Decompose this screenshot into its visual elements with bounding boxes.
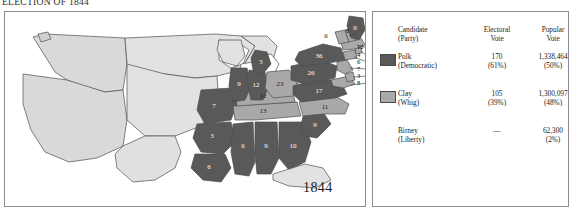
callout-delaware: 3	[357, 72, 360, 79]
legend-swatch-clay	[380, 91, 396, 103]
state-indiana[interactable]	[247, 70, 267, 100]
map-year-label: 1844	[303, 180, 333, 196]
legend-header-electoral: Electoral Vote	[473, 26, 521, 43]
legend-electoral-pct-clay: (39%)	[473, 99, 521, 108]
legend-name-polk: Polk (Democratic)	[398, 53, 437, 70]
legend-name-birney: Birney (Liberty)	[398, 127, 424, 144]
page-title: ELECTION OF 1844	[2, 0, 89, 7]
legend-row-polk[interactable]: Polk (Democratic) 170 (61%) 1,338,464 (5…	[373, 53, 570, 83]
legend-panel: Candidate (Party) Electoral Vote Popular…	[372, 11, 569, 207]
legend-electoral-pct-polk: (61%)	[473, 62, 521, 71]
legend-party-birney: (Liberty)	[398, 136, 424, 145]
legend-popular-polk: 1,338,464 (50%)	[525, 53, 573, 70]
state-arkansas[interactable]	[193, 122, 235, 154]
legend-header-candidate: Candidate (Party)	[398, 26, 428, 43]
legend-swatch-polk	[380, 54, 396, 66]
state-alabama[interactable]	[255, 122, 279, 174]
legend-party-polk: (Democratic)	[398, 62, 437, 71]
legend-header-electoral-sub: Vote	[473, 35, 521, 44]
legend-party-clay: (Whig)	[398, 99, 419, 108]
legend-electoral-birney: —	[473, 127, 521, 136]
us-election-map: .st{stroke:#4d4d4d;stroke-width:.7;strok…	[5, 12, 365, 206]
callout-new-jersey: 7	[357, 65, 361, 72]
legend-row-birney[interactable]: Birney (Liberty) — 62,300 (2%)	[373, 127, 570, 157]
state-new-jersey[interactable]	[337, 60, 353, 74]
ev-vermont: 6	[324, 32, 328, 40]
legend-electoral-clay: 105 (39%)	[473, 90, 521, 107]
legend-header-candidate-sub: (Party)	[398, 35, 428, 44]
callout-massachusetts: 12	[357, 43, 364, 50]
territory-texas	[115, 136, 181, 182]
leader-rhode-island	[361, 51, 365, 56]
legend-header-popular: Popular Vote	[525, 26, 573, 43]
state-mississippi[interactable]	[231, 122, 255, 176]
callout-maryland: 8	[357, 79, 360, 86]
legend-name-clay: Clay (Whig)	[398, 90, 419, 107]
state-connecticut[interactable]	[343, 50, 357, 60]
election-map-panel: .st{stroke:#4d4d4d;stroke-width:.7;strok…	[4, 11, 366, 207]
legend-popular-pct-clay: (48%)	[525, 99, 573, 108]
legend-electoral-polk: 170 (61%)	[473, 53, 521, 70]
legend-popular-clay: 1,300,097 (48%)	[525, 90, 573, 107]
legend-popular-birney: 62,300 (2%)	[525, 127, 573, 144]
legend-row-clay[interactable]: Clay (Whig) 105 (39%) 1,300,097 (48%)	[373, 90, 570, 120]
state-louisiana[interactable]	[191, 154, 231, 182]
legend-popular-pct-polk: (50%)	[525, 62, 573, 71]
legend-header-popular-sub: Vote	[525, 35, 573, 44]
legend-electoral-value-birney: —	[473, 127, 521, 136]
legend-popular-pct-birney: (2%)	[525, 136, 573, 145]
